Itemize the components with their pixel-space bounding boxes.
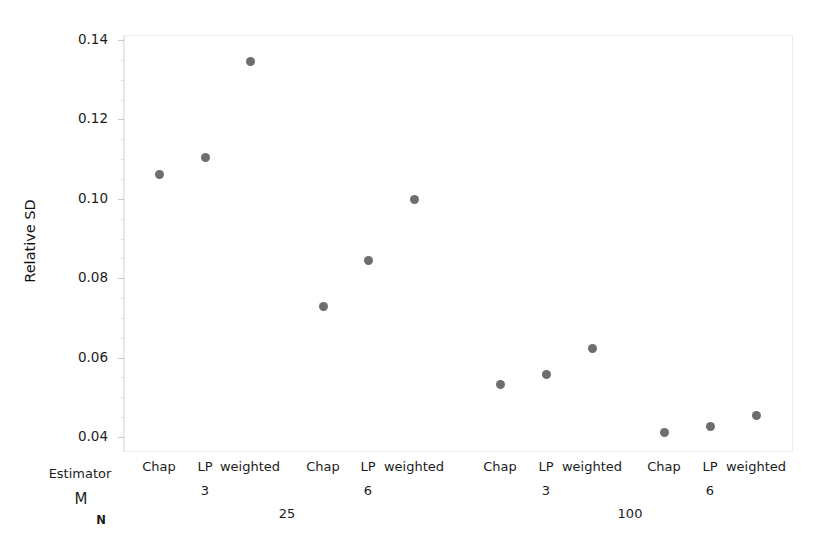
y-tick-label: 0.10 [62,190,108,206]
data-point [246,57,255,66]
y-tick-label: 0.06 [62,349,108,365]
x-axis-estimator-label: Chap [142,459,176,474]
data-point [752,411,761,420]
x-axis-estimator-label: weighted [562,459,622,474]
x-axis-m-level-label: 3 [542,483,550,498]
data-point [410,195,419,204]
x-axis-estimator-label: weighted [384,459,444,474]
y-tick-label: 0.04 [62,428,108,444]
x-axis-n-level-label: 100 [618,506,643,521]
y-tick-label: 0.08 [62,269,108,285]
x-axis-estimator-label: LP [197,459,212,474]
axis-row-header-estimator: Estimator [49,466,112,481]
x-axis-estimator-label: LP [702,459,717,474]
data-point [319,302,328,311]
y-tick-label: 0.12 [62,110,108,126]
x-axis-m-level-label: 6 [706,483,714,498]
x-axis-m-level-label: 3 [201,483,209,498]
x-axis-estimator-label: Chap [647,459,681,474]
axis-row-header-m: M [75,490,88,508]
data-point [588,344,597,353]
plot-area [124,35,793,452]
x-axis-estimator-label: Chap [306,459,340,474]
x-axis-m-level-label: 6 [364,483,372,498]
x-axis-n-level-label: 25 [279,506,296,521]
x-axis-estimator-label: LP [360,459,375,474]
x-axis-estimator-label: weighted [726,459,786,474]
data-point [542,370,551,379]
axis-row-header-n: N [96,513,106,527]
data-point [155,170,164,179]
x-axis-estimator-label: Chap [483,459,517,474]
y-axis-title: Relative SD [22,191,38,291]
data-point [660,428,669,437]
x-axis-estimator-label: weighted [220,459,280,474]
x-axis-estimator-label: LP [538,459,553,474]
data-point [364,256,373,265]
data-point [201,153,210,162]
scatter-chart: Relative SD 0.040.060.080.100.120.14 Cha… [0,0,822,543]
y-tick-label: 0.14 [62,31,108,47]
data-point [706,422,715,431]
data-point [496,380,505,389]
